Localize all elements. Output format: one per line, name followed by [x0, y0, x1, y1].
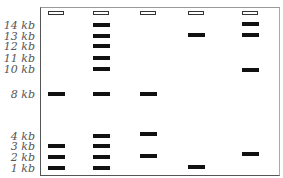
well: [242, 11, 258, 15]
dna-band: [242, 68, 259, 72]
dna-band: [48, 155, 65, 159]
dna-band: [48, 144, 65, 148]
dna-band: [140, 154, 157, 158]
dna-band: [48, 92, 65, 96]
well: [140, 11, 156, 15]
well: [93, 11, 109, 15]
well: [48, 11, 64, 15]
dna-band: [48, 166, 65, 170]
dna-band: [93, 144, 110, 148]
dna-band: [93, 166, 110, 170]
dna-band: [93, 23, 110, 27]
size-label: 10 kb: [4, 64, 35, 75]
dna-band: [188, 33, 205, 37]
dna-band: [93, 92, 110, 96]
dna-band: [93, 67, 110, 71]
dna-band: [242, 152, 259, 156]
size-label: 12 kb: [4, 41, 35, 52]
dna-band: [93, 44, 110, 48]
dna-band: [242, 33, 259, 37]
size-label: 8 kb: [11, 89, 35, 100]
dna-band: [93, 34, 110, 38]
dna-band: [93, 155, 110, 159]
well: [188, 11, 204, 15]
size-label: 1 kb: [11, 163, 35, 174]
dna-band: [93, 56, 110, 60]
dna-band: [93, 134, 110, 138]
dna-band: [140, 92, 157, 96]
dna-band: [188, 165, 205, 169]
dna-band: [140, 132, 157, 136]
dna-band: [242, 22, 259, 26]
